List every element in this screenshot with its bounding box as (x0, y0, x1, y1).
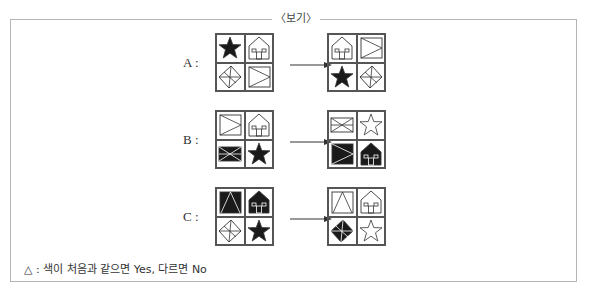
arrow-right-icon (290, 61, 332, 69)
square-apex-icon (328, 188, 357, 217)
row-label: A : (183, 55, 199, 71)
house-icon (357, 188, 386, 217)
legend-note: △ : 색이 처음과 같으면 Yes, 다르면 No (24, 260, 207, 276)
diamond-icon (216, 63, 245, 92)
rule-row-c: C : (0, 187, 592, 253)
diamond-icon (216, 217, 245, 246)
star-icon (245, 140, 274, 169)
grid-before (215, 187, 274, 246)
square-triangle-icon (357, 34, 386, 63)
diamond-icon (357, 63, 386, 92)
grid-after (327, 110, 386, 169)
square-triangle-icon (328, 140, 357, 169)
square-apex-icon (216, 188, 245, 217)
star-icon (357, 217, 386, 246)
square-triangle-icon (245, 63, 274, 92)
star-icon (357, 111, 386, 140)
house-icon (245, 34, 274, 63)
example-box-title: 〈보기〉 (272, 12, 320, 26)
star-icon (216, 34, 245, 63)
grid-before (215, 33, 274, 92)
house-icon (245, 188, 274, 217)
house-icon (245, 111, 274, 140)
house-icon (328, 34, 357, 63)
row-label: B : (183, 132, 199, 148)
rule-row-b: B : (0, 110, 592, 176)
star-icon (328, 63, 357, 92)
square-triangle-icon (216, 111, 245, 140)
envelope-icon (216, 140, 245, 169)
star-icon (245, 217, 274, 246)
arrow-right-icon (290, 138, 332, 146)
rule-row-a: A : (0, 33, 592, 99)
arrow-right-icon (290, 215, 332, 223)
grid-before (215, 110, 274, 169)
house-icon (357, 140, 386, 169)
grid-after (327, 33, 386, 92)
row-label: C : (183, 209, 199, 225)
grid-after (327, 187, 386, 246)
envelope-icon (328, 111, 357, 140)
diamond-icon (328, 217, 357, 246)
